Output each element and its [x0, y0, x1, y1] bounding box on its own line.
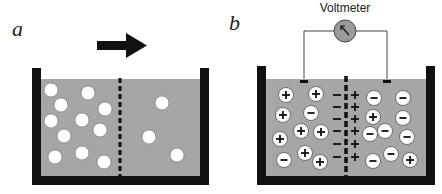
cation	[298, 146, 313, 161]
particle	[97, 155, 111, 169]
particle	[81, 86, 95, 100]
anion	[396, 91, 411, 106]
cation	[294, 124, 309, 139]
particle	[75, 146, 89, 160]
membrane-negative-charge	[333, 118, 341, 120]
membrane-negative-charge	[333, 156, 341, 158]
voltmeter-label: Voltmeter	[320, 1, 371, 15]
particle	[57, 129, 71, 143]
particle	[44, 114, 58, 128]
particle	[75, 113, 89, 127]
particle	[48, 150, 62, 164]
anion	[366, 154, 381, 169]
membrane-negative-charge	[333, 106, 341, 108]
cation	[403, 153, 418, 168]
anion	[396, 111, 411, 126]
cation	[314, 125, 329, 140]
anion	[384, 147, 399, 162]
anion	[400, 130, 415, 145]
voltmeter-icon	[334, 20, 356, 42]
panel-b: b Voltmeter	[229, 1, 435, 185]
anion	[378, 124, 393, 139]
particle	[93, 123, 107, 137]
particle	[155, 96, 169, 110]
anion	[304, 106, 319, 121]
cation	[273, 132, 288, 147]
membrane-potential-diagram: a b Voltmeter	[0, 0, 442, 194]
cation	[366, 110, 381, 125]
particle	[54, 98, 68, 112]
particle	[142, 130, 156, 144]
panel-b-label: b	[229, 10, 240, 35]
anion	[363, 127, 378, 142]
cation	[309, 87, 324, 102]
panel-a-label: a	[12, 16, 23, 41]
cation	[313, 155, 328, 170]
membrane-negative-charge	[333, 94, 341, 96]
particle	[170, 148, 184, 162]
anion	[367, 91, 382, 106]
anion	[277, 153, 292, 168]
particle	[98, 102, 112, 116]
arrow-right-icon	[97, 33, 147, 58]
membrane-negative-charge	[333, 143, 341, 145]
particle	[44, 83, 58, 97]
cation	[276, 108, 291, 123]
panel-a: a	[12, 16, 209, 185]
membrane-negative-charge	[333, 130, 341, 132]
cation	[279, 88, 294, 103]
